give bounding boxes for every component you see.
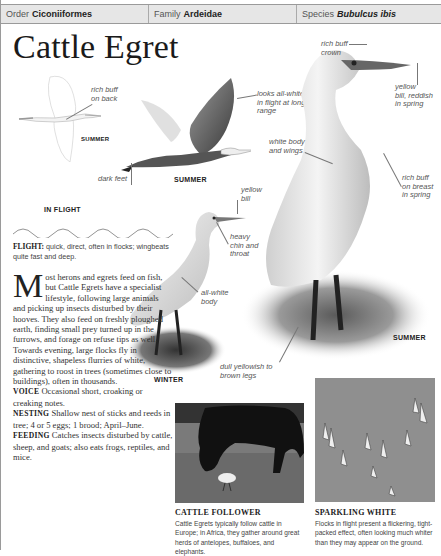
leader-line <box>237 200 238 214</box>
flight-label: FLIGHT: <box>13 242 44 251</box>
flying-egret-icon <box>121 70 251 180</box>
label-yellow-bill-winter: yellow bill <box>241 186 262 203</box>
label-heavy-chin: heavy chin and throat <box>230 233 258 259</box>
egret-flock-image <box>315 378 435 502</box>
label-buff-breast: rich buff on breast in spring <box>402 174 433 200</box>
feeding-label: FEEDING <box>13 431 50 440</box>
leader-line <box>131 163 132 185</box>
photo-title-2: SPARKLING WHITE <box>315 508 396 517</box>
page-title: Cattle Egret <box>13 28 179 66</box>
in-flight-caption: IN FLIGHT <box>44 206 81 213</box>
species-cell: Species Bubulcus ibis <box>297 5 441 23</box>
family-label: Family <box>154 9 181 19</box>
flying-egret-illustration <box>121 70 251 180</box>
species-value: Bubulcus ibis <box>337 9 396 19</box>
voice-label: VOICE <box>13 387 39 396</box>
label-buff-back: rich buff on back <box>91 86 118 103</box>
label-dark-feet: dark feet <box>98 175 127 184</box>
species-label: Species <box>302 9 334 19</box>
nesting-label: NESTING <box>13 409 49 418</box>
cattle-follower-photo <box>175 403 304 503</box>
dropcap: M <box>13 273 43 299</box>
label-buff-crown: rich buff crown <box>321 40 348 57</box>
cow-and-egret-image <box>175 403 304 503</box>
species-description: Most herons and egrets feed on fish, but… <box>13 272 173 462</box>
label-white-body: white body and wings <box>269 138 305 155</box>
order-cell: Order Ciconiiformes <box>1 5 149 23</box>
leader-line <box>349 44 367 45</box>
order-label: Order <box>6 9 29 19</box>
season-label-flight: SUMMER <box>81 136 109 142</box>
family-value: Ardeidae <box>184 9 223 19</box>
family-cell: Family Ardeidae <box>149 5 297 23</box>
order-value: Ciconiiformes <box>32 9 92 19</box>
season-label-summer: SUMMER <box>393 334 426 341</box>
label-yellow-bill: yellow bill, reddish in spring <box>395 83 433 109</box>
sparkling-white-photo <box>315 378 435 502</box>
taxonomy-header: Order Ciconiiformes Family Ardeidae Spec… <box>1 4 441 24</box>
label-all-white-body: all-white body <box>201 289 229 306</box>
season-label-flying: SUMMER <box>174 176 207 183</box>
photo-caption-2: Flocks in flight present a flickering, t… <box>315 519 439 547</box>
leader-line <box>417 63 418 85</box>
photo-title-1: CATTLE FOLLOWER <box>175 508 261 517</box>
photo-caption-1: Cattle Egrets typically follow cattle in… <box>175 519 305 556</box>
